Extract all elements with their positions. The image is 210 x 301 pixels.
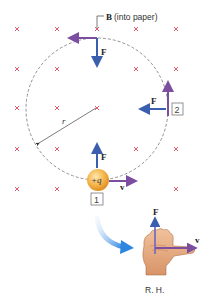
x-marker-icon <box>55 106 59 110</box>
x-marker-icon <box>134 67 138 71</box>
curved-arrow-icon <box>97 218 134 254</box>
x-marker-icon <box>55 27 59 31</box>
radius-indicator: r <box>39 108 96 143</box>
magnetic-force-diagram: B (into paper) F F 2 r F +q v 1 <box>0 0 210 301</box>
x-marker-icon <box>15 147 19 151</box>
charge-label: +q <box>91 175 102 185</box>
x-marker-icon <box>174 187 178 191</box>
velocity-label: v <box>120 182 125 192</box>
x-marker-icon <box>15 27 19 31</box>
position-1-label: 1 <box>94 195 99 205</box>
position-2-vectors: F 2 <box>140 82 183 116</box>
x-marker-icon <box>55 187 59 191</box>
x-marker-icon <box>55 67 59 71</box>
right-hand-icon: F v <box>143 207 200 275</box>
position-2-label: 2 <box>175 105 180 115</box>
force-label: F <box>101 47 107 57</box>
x-marker-icon <box>174 67 178 71</box>
field-symbol: B <box>106 12 112 22</box>
field-label: B (into paper) <box>97 12 158 29</box>
top-position-vectors: F <box>69 38 107 66</box>
x-marker-icon <box>15 187 19 191</box>
field-note: (into paper) <box>114 12 158 22</box>
x-marker-icon <box>134 27 138 31</box>
force-label: F <box>101 152 107 162</box>
radius-label: r <box>62 116 66 126</box>
x-marker-icon <box>15 67 19 71</box>
hand-caption: R. H. <box>145 285 164 295</box>
force-label: F <box>151 96 157 106</box>
x-marker-icon <box>174 27 178 31</box>
x-marker-icon <box>134 147 138 151</box>
x-marker-icon <box>55 147 59 151</box>
x-marker-icon <box>15 106 19 110</box>
force-label: F <box>153 207 159 217</box>
position-1-vectors: F +q v 1 <box>87 144 136 205</box>
velocity-label: v <box>195 235 200 245</box>
x-marker-icon <box>174 147 178 151</box>
